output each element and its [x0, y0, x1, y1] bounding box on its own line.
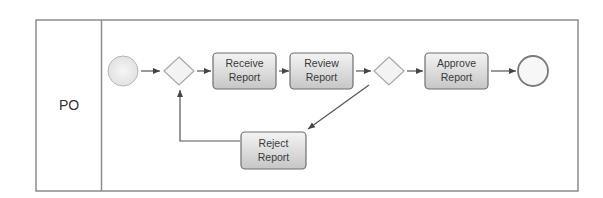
pool: PO: [36, 20, 578, 191]
task-approve-report[interactable]: Approve Report: [425, 53, 488, 89]
task-label-line1: Reject: [259, 137, 289, 149]
task-label-line1: Receive: [226, 57, 264, 69]
task-label-line1: Review: [304, 57, 339, 69]
task-review-report[interactable]: Review Report: [290, 53, 353, 89]
lane-label: PO: [59, 97, 79, 113]
pool-border: [36, 20, 578, 191]
start-event[interactable]: [108, 56, 138, 86]
bpmn-diagram: PO Receive Report Review Report Approve …: [0, 0, 603, 198]
task-label-line2: Report: [306, 71, 338, 83]
task-receive-report[interactable]: Receive Report: [213, 53, 276, 89]
task-label-line2: Report: [441, 71, 473, 83]
task-reject-report[interactable]: Reject Report: [241, 132, 306, 169]
task-label-line2: Report: [229, 71, 261, 83]
task-label-line2: Report: [258, 151, 290, 163]
end-event[interactable]: [518, 56, 548, 86]
task-label-line1: Approve: [437, 57, 476, 69]
